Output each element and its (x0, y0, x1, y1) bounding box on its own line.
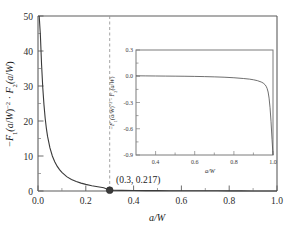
x-tick-label-0: 0.0 (32, 196, 44, 206)
x-axis-label-text: a/W (149, 212, 167, 223)
y-axis-label: −F1(a/W)−2 · F2(a/W) (4, 61, 18, 146)
inset-x-tick-label-0: 0.4 (152, 159, 160, 165)
x-tick-labels: 0.0 0.2 0.4 0.6 0.8 1.0 (32, 196, 283, 206)
chart-svg: 0 10 20 30 40 50 0.0 0.2 0.4 0.6 (0, 0, 291, 241)
inset-y-axis-label: −F1(a/W)−2 · F2(a/W) (108, 76, 118, 129)
y-tick-label-30: 30 (24, 82, 34, 92)
figure-container: 0 10 20 30 40 50 0.0 0.2 0.4 0.6 (0, 0, 291, 241)
y-axis-label-text: −F1(a/W)−2 · F2(a/W) (4, 61, 18, 146)
y-tick-label-50: 50 (24, 12, 34, 22)
inset-chart: 0.3 0.0 -0.3 -0.6 -0.9 0.4 0.6 0.8 1 (108, 47, 277, 174)
x-tick-label-4: 0.8 (223, 196, 235, 206)
x-tick-label-3: 0.6 (175, 196, 187, 206)
inset-x-tick-labels: 0.4 0.6 0.8 1.0 (152, 159, 277, 165)
x-tick-label-5: 1.0 (271, 196, 283, 206)
inset-x-axis-label: a/W (205, 167, 216, 174)
y-label-exp: −2 (4, 102, 11, 109)
inset-frame (136, 50, 273, 155)
inset-y-tick-label-4: -0.9 (124, 152, 134, 158)
x-tick-label-1: 0.2 (80, 196, 92, 206)
inset-x-tick-label-2: 0.8 (230, 159, 238, 165)
y-tick-label-0: 0 (28, 187, 33, 197)
y-tick-label-40: 40 (24, 47, 34, 57)
y-label-arg2: (a (4, 76, 16, 84)
inset-y-tick-label-2: -0.3 (124, 100, 134, 106)
inset-y-tick-label-3: -0.6 (124, 126, 134, 132)
inset-y-tick-labels: 0.3 0.0 -0.3 -0.6 -0.9 (124, 47, 134, 158)
x-tick-label-2: 0.4 (128, 196, 140, 206)
y-tick-label-10: 10 (24, 152, 34, 162)
inset-x-tick-label-3: 1.0 (269, 159, 277, 165)
data-point-marker (106, 187, 113, 194)
y-tick-labels: 0 10 20 30 40 50 (24, 12, 34, 197)
inset-y-axis-label-text: −F1(a/W)−2 · F2(a/W) (108, 76, 118, 129)
y-tick-label-20: 20 (24, 117, 34, 127)
annotation-label: (0.3, 0.217) (116, 175, 160, 186)
inset-y-tick-label-0: 0.3 (126, 47, 134, 53)
y-label-arg1: (a (4, 123, 16, 131)
inset-x-tick-label-1: 0.6 (191, 159, 199, 165)
inset-y-tick-label-1: 0.0 (126, 73, 134, 79)
x-axis-label: a/W (149, 212, 167, 223)
